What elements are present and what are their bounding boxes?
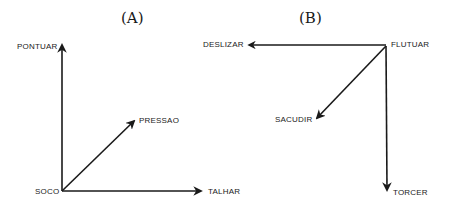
arrow-flutuar-to-sacudir <box>317 46 386 118</box>
arrow-soco-to-pressao <box>62 121 134 191</box>
panel-b-title: (B) <box>299 11 322 26</box>
label-torcer: TORCER <box>393 189 428 197</box>
panel-a-arrows <box>62 45 201 191</box>
arrows-layer <box>0 0 452 213</box>
label-talhar: TALHAR <box>208 188 240 196</box>
panel-b-arrows <box>249 45 387 190</box>
diagram-canvas: (A) PONTUAR PRESSAO SOCO TALHAR (B) DESL… <box>0 0 452 213</box>
label-deslizar: DESLIZAR <box>203 41 244 49</box>
label-pressao: PRESSAO <box>139 117 179 125</box>
panel-a-title: (A) <box>121 11 144 26</box>
arrow-flutuar-to-torcer <box>386 46 387 190</box>
label-flutuar: FLUTUAR <box>391 41 429 49</box>
label-sacudir: SACUDIR <box>275 116 312 124</box>
label-soco: SOCO <box>35 188 59 196</box>
label-pontuar: PONTUAR <box>17 43 58 51</box>
